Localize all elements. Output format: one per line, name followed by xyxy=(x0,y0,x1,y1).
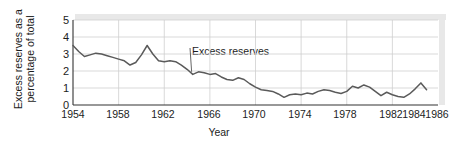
chart-shadow-top xyxy=(75,14,446,20)
chart-shadow-right xyxy=(439,14,445,105)
chart-figure: Excess reserves as a percentage of total… xyxy=(0,0,466,145)
annotation-leader-line xyxy=(190,48,192,72)
plot-area xyxy=(0,0,466,145)
data-line-excess-reserves xyxy=(73,46,427,98)
